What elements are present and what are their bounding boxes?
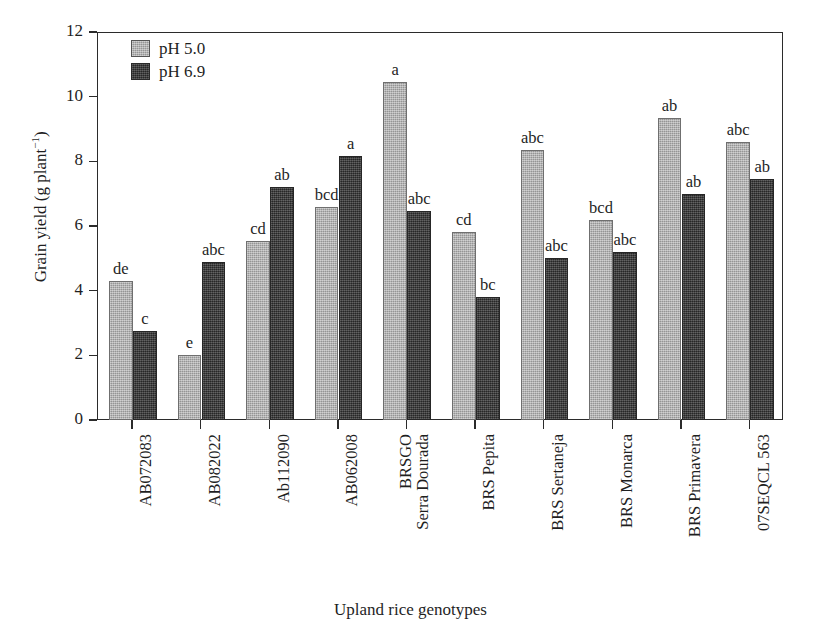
x-axis-tick-mark [269,420,271,429]
bar [521,150,545,420]
y-axis-title-close: ) [31,131,50,137]
bar [315,207,339,420]
bar [682,194,706,420]
bar-significance-label: abc [526,237,586,255]
x-axis-tick-mark [680,420,682,429]
y-axis-tick-label: 4 [75,280,84,300]
bar-significance-label: a [365,61,425,79]
x-axis-tick-mark [749,420,751,429]
legend-item: pH 5.0 [131,38,205,59]
bar [383,82,407,420]
bar-significance-label: ab [640,97,700,115]
x-axis-category-label-line: BRSGO [397,434,414,599]
x-axis-category-label: AB062008 [343,434,360,599]
x-axis-category-label: BRS Pepita [480,434,497,599]
bar-significance-label: bc [458,276,518,294]
legend-label: pH 5.0 [159,39,205,59]
x-axis-category-label-line: Serra Dourada [414,434,431,599]
bar-significance-label: cd [434,211,494,229]
x-axis-tick-mark [406,420,408,429]
x-axis-tick-mark [612,420,614,429]
y-axis-tick-label: 10 [66,86,83,106]
bar-significance-label: de [91,260,151,278]
y-axis-tick-mark [89,225,97,227]
y-axis-title-text: Grain yield (g plant [31,149,50,283]
bar [246,241,270,420]
bar [270,187,294,420]
y-axis-tick-mark [89,290,97,292]
y-axis-tick-mark [89,96,97,98]
bar [545,258,569,420]
bar [658,118,682,420]
bar [178,355,202,420]
x-axis-category-label: 07SEQCL 563 [755,434,772,599]
x-axis-tick-mark [131,420,133,429]
x-axis-category-label: BRS Primavera [686,434,703,599]
bar-significance-label: ab [732,158,792,176]
bar-significance-label: abc [595,231,655,249]
y-axis-tick-mark [89,355,97,357]
x-axis-title: Upland rice genotypes [0,600,821,620]
y-axis-tick-mark [89,419,97,421]
bar [750,179,774,420]
bar-significance-label: abc [389,190,449,208]
y-axis-tick-label: 0 [75,409,84,429]
x-axis-category-label: AB082022 [206,434,223,599]
legend-swatch [131,40,150,57]
bar-significance-label: ab [252,166,312,184]
chart-legend: pH 5.0pH 6.9 [131,38,205,84]
bar-significance-label: abc [183,241,243,259]
bar-significance-label: abc [502,129,562,147]
bar [589,220,613,420]
y-axis-title-exponent: −1 [29,137,41,149]
y-axis-tick-label: 6 [75,215,84,235]
x-axis-tick-mark [474,420,476,429]
bar [613,252,637,420]
legend-item: pH 6.9 [131,61,205,82]
y-axis-tick-label: 8 [75,150,84,170]
y-axis-tick-mark [89,31,97,33]
bar-significance-label: ab [664,173,724,191]
bar [452,232,476,420]
legend-label: pH 6.9 [159,62,205,82]
grain-yield-bar-chart: 024681012 Grain yield (g plant−1) AB0720… [0,0,821,641]
bar-significance-label: abc [708,121,768,139]
x-axis-category-label: Ab112090 [275,434,292,599]
y-axis-title: Grain yield (g plant−1) [29,47,51,367]
x-axis-tick-mark [337,420,339,429]
legend-swatch [131,63,150,80]
bar-significance-label: a [321,135,381,153]
bar [476,297,500,420]
bar [109,281,133,420]
x-axis-category-label: BRS Sertaneja [549,434,566,599]
bar [339,156,363,420]
bar-significance-label: c [115,310,175,328]
bar-significance-label: bcd [571,199,631,217]
y-axis-tick-mark [89,161,97,163]
y-axis-tick-label: 12 [66,21,83,41]
x-axis-category-label: AB072083 [137,434,154,599]
y-axis-tick-label: 2 [75,344,84,364]
bar [202,262,226,420]
x-axis-category-label: BRS Monarca [618,434,635,599]
bar [726,142,750,420]
x-axis-category-label: BRSGOSerra Dourada [397,434,431,599]
x-axis-tick-mark [543,420,545,429]
x-axis-tick-mark [200,420,202,429]
bar [407,211,431,420]
bar [133,331,157,420]
